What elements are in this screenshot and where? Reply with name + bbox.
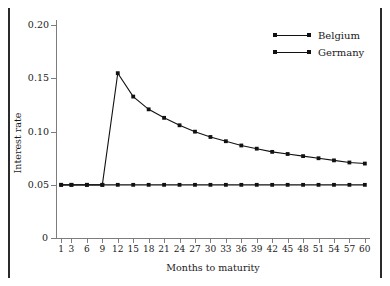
x-axis-title: Months to maturity bbox=[56, 262, 370, 273]
x-tick-label: 48 bbox=[297, 245, 308, 254]
x-tick-label: 12 bbox=[112, 245, 123, 254]
x-tick bbox=[257, 238, 258, 243]
y-tick bbox=[51, 238, 56, 239]
x-tick bbox=[210, 238, 211, 243]
x-tick bbox=[303, 238, 304, 243]
chart-figure: Interest rate Months to maturity 00.050.… bbox=[0, 0, 390, 286]
data-point bbox=[193, 130, 197, 134]
data-point bbox=[100, 183, 104, 187]
x-tick-label: 57 bbox=[344, 245, 355, 254]
series-line-belgium bbox=[61, 73, 365, 185]
data-point bbox=[193, 183, 197, 187]
x-tick-label: 39 bbox=[251, 245, 262, 254]
x-tick-label: 1 bbox=[58, 245, 64, 254]
data-point bbox=[301, 154, 305, 158]
x-tick bbox=[334, 238, 335, 243]
x-tick-label: 60 bbox=[359, 245, 370, 254]
x-tick bbox=[71, 238, 72, 243]
data-point bbox=[363, 162, 367, 166]
data-point bbox=[255, 147, 259, 151]
data-point bbox=[147, 183, 151, 187]
data-point bbox=[178, 183, 182, 187]
x-tick-label: 36 bbox=[236, 245, 247, 254]
legend-item-germany[interactable]: Germany bbox=[272, 44, 364, 61]
x-tick-label: 54 bbox=[328, 245, 339, 254]
x-tick bbox=[195, 238, 196, 243]
legend-item-belgium[interactable]: Belgium bbox=[272, 27, 364, 44]
x-tick bbox=[61, 238, 62, 243]
data-point bbox=[224, 139, 228, 143]
x-tick bbox=[241, 238, 242, 243]
data-point bbox=[209, 183, 213, 187]
data-point bbox=[317, 156, 321, 160]
y-tick-label: 0.10 bbox=[28, 127, 49, 137]
data-point bbox=[70, 183, 74, 187]
x-tick bbox=[87, 238, 88, 243]
x-tick-label: 30 bbox=[205, 245, 216, 254]
data-point bbox=[239, 183, 243, 187]
data-point bbox=[348, 183, 352, 187]
figure-border-left bbox=[8, 8, 10, 278]
x-tick-label: 21 bbox=[158, 245, 169, 254]
x-tick bbox=[272, 238, 273, 243]
x-tick bbox=[133, 238, 134, 243]
data-point bbox=[116, 71, 120, 75]
x-tick-label: 6 bbox=[84, 245, 90, 254]
y-axis-title: Interest rate bbox=[12, 113, 23, 174]
x-tick bbox=[102, 238, 103, 243]
x-tick-label: 45 bbox=[282, 245, 293, 254]
x-tick bbox=[226, 238, 227, 243]
data-point bbox=[116, 183, 120, 187]
x-tick-label: 51 bbox=[313, 245, 324, 254]
data-point bbox=[59, 183, 63, 187]
data-point bbox=[162, 116, 166, 120]
data-point bbox=[224, 183, 228, 187]
data-point bbox=[348, 161, 352, 165]
data-point bbox=[363, 183, 367, 187]
data-point bbox=[270, 150, 274, 154]
x-tick bbox=[349, 238, 350, 243]
legend-swatch-icon bbox=[272, 48, 312, 57]
x-tick bbox=[180, 238, 181, 243]
x-tick-label: 24 bbox=[174, 245, 185, 254]
x-tick-label: 42 bbox=[266, 245, 277, 254]
y-tick-label: 0.20 bbox=[28, 21, 49, 31]
x-tick-label: 3 bbox=[69, 245, 75, 254]
data-point bbox=[270, 183, 274, 187]
data-point bbox=[178, 123, 182, 127]
x-tick-label: 18 bbox=[143, 245, 154, 254]
data-point bbox=[332, 158, 336, 162]
legend-item-label: Germany bbox=[318, 48, 364, 58]
figure-border-right bbox=[380, 8, 382, 278]
x-tick-label: 33 bbox=[220, 245, 231, 254]
y-tick-label: 0 bbox=[42, 233, 48, 243]
data-point bbox=[239, 144, 243, 148]
x-tick bbox=[319, 238, 320, 243]
x-tick-label: 9 bbox=[99, 245, 105, 254]
x-tick bbox=[118, 238, 119, 243]
x-tick-label: 27 bbox=[189, 245, 200, 254]
x-tick bbox=[164, 238, 165, 243]
data-point bbox=[147, 107, 151, 111]
x-tick bbox=[149, 238, 150, 243]
data-point bbox=[286, 152, 290, 156]
chart-legend: BelgiumGermany bbox=[272, 27, 364, 61]
legend-item-label: Belgium bbox=[318, 31, 360, 41]
data-point bbox=[131, 183, 135, 187]
data-point bbox=[85, 183, 89, 187]
data-point bbox=[255, 183, 259, 187]
data-point bbox=[317, 183, 321, 187]
legend-swatch-icon bbox=[272, 31, 312, 40]
data-point bbox=[286, 183, 290, 187]
data-point bbox=[301, 183, 305, 187]
data-point bbox=[332, 183, 336, 187]
data-point bbox=[131, 95, 135, 99]
y-tick-label: 0.05 bbox=[28, 180, 49, 190]
data-point bbox=[162, 183, 166, 187]
x-tick-label: 15 bbox=[127, 245, 138, 254]
x-tick bbox=[365, 238, 366, 243]
x-tick bbox=[288, 238, 289, 243]
y-tick-label: 0.15 bbox=[28, 74, 49, 84]
data-point bbox=[209, 135, 213, 139]
